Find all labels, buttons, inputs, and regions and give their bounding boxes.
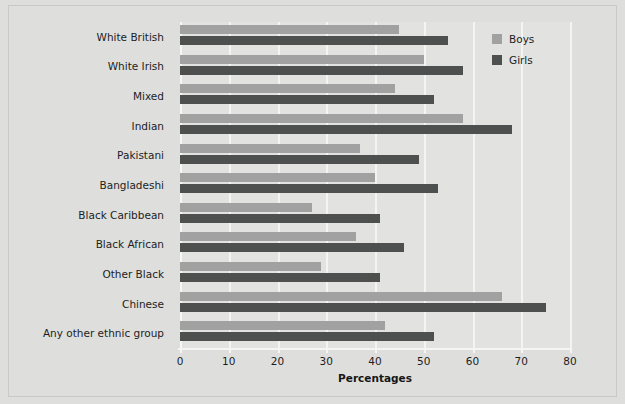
bar-boys: [180, 25, 399, 34]
bar-boys: [180, 292, 502, 301]
category-label: Bangladeshi: [0, 179, 164, 191]
legend-label-girls: Girls: [509, 54, 533, 66]
x-tick-label: 20: [263, 355, 293, 367]
bar-group: [180, 141, 570, 171]
bar-group: [180, 318, 570, 348]
x-tick-mark-10: [229, 348, 231, 353]
x-tick-mark-80: [570, 348, 572, 353]
bar-group: [180, 259, 570, 289]
x-tick-mark-20: [278, 348, 280, 353]
bar-group: [180, 229, 570, 259]
bar-group: [180, 170, 570, 200]
x-tick-label: 40: [360, 355, 390, 367]
category-label: Chinese: [0, 298, 164, 310]
category-label: Black Caribbean: [0, 209, 164, 221]
bar-boys: [180, 114, 463, 123]
category-label: Mixed: [0, 90, 164, 102]
x-tick-label: 80: [555, 355, 585, 367]
bar-group: [180, 81, 570, 111]
x-axis-title: Percentages: [180, 372, 570, 384]
bar-group: [180, 200, 570, 230]
bar-girls: [180, 95, 434, 104]
category-label: White Irish: [0, 60, 164, 72]
legend-label-boys: Boys: [509, 33, 534, 45]
x-tick-label: 50: [409, 355, 439, 367]
bar-group: [180, 111, 570, 141]
category-label: Black African: [0, 238, 164, 250]
bar-boys: [180, 144, 360, 153]
bar-girls: [180, 243, 404, 252]
x-tick-mark-40: [375, 348, 377, 353]
bar-girls: [180, 303, 546, 312]
bar-girls: [180, 332, 434, 341]
bar-girls: [180, 273, 380, 282]
bar-boys: [180, 173, 375, 182]
chart-legend: Boys Girls: [492, 30, 572, 72]
category-label: White British: [0, 31, 164, 43]
category-label: Pakistani: [0, 149, 164, 161]
legend-swatch-boys-icon: [492, 34, 502, 44]
bar-boys: [180, 84, 395, 93]
x-tick-mark-60: [473, 348, 475, 353]
x-tick-mark-50: [424, 348, 426, 353]
category-label: Indian: [0, 120, 164, 132]
bar-boys: [180, 55, 424, 64]
x-tick-label: 10: [214, 355, 244, 367]
x-tick-mark-70: [521, 348, 523, 353]
bar-boys: [180, 262, 321, 271]
x-tick-label: 60: [458, 355, 488, 367]
bar-girls: [180, 125, 512, 134]
bar-girls: [180, 155, 419, 164]
bar-girls: [180, 214, 380, 223]
bar-chart-figure: White BritishWhite IrishMixedIndianPakis…: [0, 0, 625, 404]
x-tick-label: 70: [506, 355, 536, 367]
bar-boys: [180, 232, 356, 241]
bar-group: [180, 289, 570, 319]
category-label: Any other ethnic group: [0, 327, 164, 339]
x-tick-label: 0: [165, 355, 195, 367]
category-label: Other Black: [0, 268, 164, 280]
legend-entry-boys: Boys: [492, 30, 572, 47]
bar-girls: [180, 66, 463, 75]
x-tick-mark-0: [180, 348, 182, 353]
category-axis-labels: White BritishWhite IrishMixedIndianPakis…: [0, 22, 172, 348]
bar-girls: [180, 36, 448, 45]
x-tick-mark-30: [326, 348, 328, 353]
bar-boys: [180, 321, 385, 330]
bar-girls: [180, 184, 438, 193]
x-tick-label: 30: [311, 355, 341, 367]
legend-swatch-girls-icon: [492, 55, 502, 65]
legend-entry-girls: Girls: [492, 51, 572, 68]
bar-boys: [180, 203, 312, 212]
